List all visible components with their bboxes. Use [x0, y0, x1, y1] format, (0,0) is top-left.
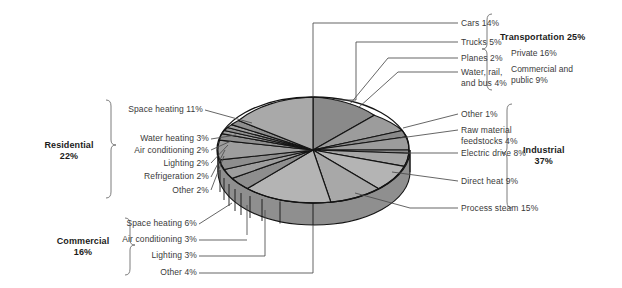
group-title-transportation: Transportation 25% — [500, 32, 585, 43]
label-cars: Cars 14% — [461, 18, 499, 29]
label-water-rail-bus-line2: and bus 4% — [461, 78, 507, 89]
label-res-refrigeration: Refrigeration 2% — [0, 171, 209, 182]
leader-cars — [313, 23, 458, 97]
label-res-lighting: Lighting 2% — [0, 158, 209, 169]
label-water-rail-bus-line1: Water, rail, — [461, 67, 503, 78]
label-trucks: Trucks 5% — [461, 37, 502, 48]
leader-water-rail-bus — [358, 72, 458, 108]
label-res-water-heating: Water heating 3% — [0, 133, 209, 144]
group-detail-commercial-public-line2: public 9% — [511, 75, 548, 86]
group-title-commercial-pct: 16% — [46, 247, 120, 258]
group-title-industrial-pct: 37% — [523, 156, 565, 167]
group-detail-commercial-public-line1: Commercial and — [511, 64, 573, 75]
group-title-residential-name: Residential — [44, 140, 93, 150]
label-direct-heat: Direct heat 9% — [461, 176, 518, 187]
label-planes: Planes 2% — [461, 53, 503, 64]
group-title-residential-pct: 22% — [36, 151, 102, 162]
label-electric-drive: Electric drive 8% — [461, 148, 526, 159]
leader-planes — [350, 58, 458, 104]
group-detail-private: Private 16% — [511, 48, 557, 59]
leader-com-space-heating — [199, 203, 232, 224]
label-com-space-heating: Space heating 6% — [0, 218, 197, 229]
energy-consumption-pie-figure: Cars 14% Trucks 5% Planes 2% Water, rail… — [0, 0, 622, 288]
leader-trucks — [336, 42, 458, 100]
leader-ind-other — [403, 114, 458, 128]
label-res-air-conditioning: Air conditioning 2% — [0, 145, 209, 156]
label-com-other: Other 4% — [0, 267, 197, 278]
label-res-other: Other 2% — [0, 185, 209, 196]
label-industrial-other: Other 1% — [461, 109, 498, 120]
group-title-industrial: Industrial 37% — [523, 145, 565, 167]
label-raw-material-line2: feedstocks 4% — [461, 136, 518, 147]
group-title-commercial-name: Commercial — [57, 236, 110, 246]
label-process-steam: Process steam 15% — [461, 203, 538, 214]
group-title-industrial-name: Industrial — [523, 145, 565, 155]
label-raw-material-line1: Raw material — [461, 125, 512, 136]
label-res-space-heating: Space heating 11% — [0, 104, 203, 115]
leader-raw-material — [400, 130, 458, 138]
group-title-residential: Residential 22% — [36, 140, 102, 162]
group-title-commercial: Commercial 16% — [46, 236, 120, 258]
